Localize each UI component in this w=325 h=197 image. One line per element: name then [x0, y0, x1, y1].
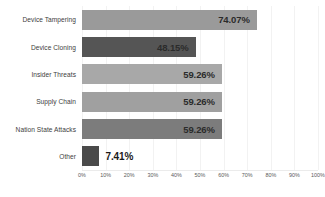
bar[interactable]: 74.07%	[82, 10, 257, 30]
bar-row: 59.26%	[82, 119, 318, 139]
x-tick-label: 30%	[147, 172, 158, 178]
x-tick-label: 100%	[311, 172, 325, 178]
bar-row: 59.26%	[82, 92, 318, 112]
bar[interactable]: 59.26%	[82, 64, 222, 84]
x-tick-label: 40%	[171, 172, 182, 178]
category-axis-labels: Device TamperingDevice CloningInsider Th…	[0, 6, 76, 170]
x-axis-ticks: 0%10%20%30%40%50%60%70%80%90%100%	[82, 172, 318, 184]
bar-value-label: 59.26%	[183, 124, 222, 135]
category-label: Other	[0, 146, 76, 166]
bar-value-label: 74.07%	[218, 14, 257, 25]
x-axis-line	[82, 170, 318, 171]
category-label: Nation State Attacks	[0, 119, 76, 139]
x-tick-label: 90%	[289, 172, 300, 178]
bar-rows: 74.07%48.15%59.26%59.26%59.26%7.41%	[82, 6, 318, 170]
x-tick-label: 0%	[78, 172, 86, 178]
bar-row: 59.26%	[82, 64, 318, 84]
bar-row: 48.15%	[82, 37, 318, 57]
bar-row: 7.41%	[82, 146, 318, 166]
category-label: Device Tampering	[0, 10, 76, 30]
bar[interactable]: 59.26%	[82, 92, 222, 112]
bar-value-label: 59.26%	[183, 69, 222, 80]
category-label: Supply Chain	[0, 92, 76, 112]
bar-row: 74.07%	[82, 10, 318, 30]
x-tick-label: 60%	[218, 172, 229, 178]
x-tick-label: 50%	[195, 172, 206, 178]
bar-value-label: 48.15%	[157, 42, 196, 53]
x-tick-label: 80%	[265, 172, 276, 178]
bar[interactable]: 48.15%	[82, 37, 196, 57]
bar-value-label: 59.26%	[183, 96, 222, 107]
plot-area: 74.07%48.15%59.26%59.26%59.26%7.41%	[82, 6, 318, 170]
x-tick-label: 20%	[124, 172, 135, 178]
category-label: Device Cloning	[0, 37, 76, 57]
gridline	[318, 6, 319, 170]
bar-chart: 74.07%48.15%59.26%59.26%59.26%7.41% Devi…	[0, 0, 325, 197]
category-label: Insider Threats	[0, 64, 76, 84]
bar[interactable]: 7.41%	[82, 146, 99, 166]
x-tick-label: 70%	[242, 172, 253, 178]
bar[interactable]: 59.26%	[82, 119, 222, 139]
bar-value-label: 7.41%	[99, 151, 133, 162]
x-tick-label: 10%	[100, 172, 111, 178]
